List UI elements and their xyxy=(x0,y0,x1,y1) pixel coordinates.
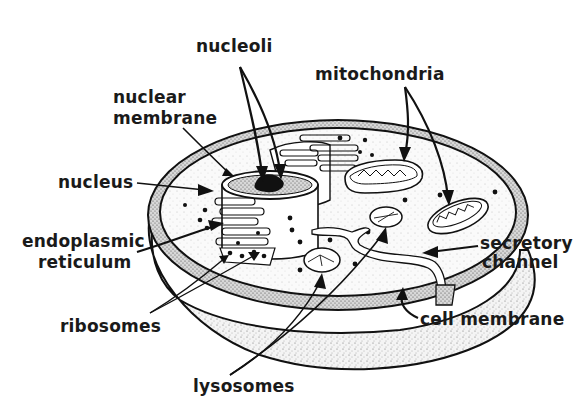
label-nucleoli: nucleoli xyxy=(196,36,273,56)
lysosome-1 xyxy=(370,207,402,227)
cell-body xyxy=(148,120,535,369)
label-secretory-channel-line2: channel xyxy=(482,252,559,272)
label-nucleus: nucleus xyxy=(58,172,133,192)
label-endoplasmic-reticulum-line1: endoplasmic xyxy=(22,231,145,251)
label-secretory-channel-line1: secretory xyxy=(480,233,573,253)
label-lysosomes: lysosomes xyxy=(193,376,295,396)
label-ribosomes: ribosomes xyxy=(60,316,161,336)
label-cell-membrane: cell membrane xyxy=(420,309,564,329)
label-nuclear-membrane-line1: nuclear xyxy=(113,87,186,107)
lysosome-2 xyxy=(304,248,340,272)
label-nuclear-membrane-line2: membrane xyxy=(113,108,217,128)
label-mitochondria: mitochondria xyxy=(315,64,445,84)
label-endoplasmic-reticulum-line2: reticulum xyxy=(38,252,132,272)
cell-diagram: nucleoli nuclear membrane mitochondria n… xyxy=(0,0,588,420)
